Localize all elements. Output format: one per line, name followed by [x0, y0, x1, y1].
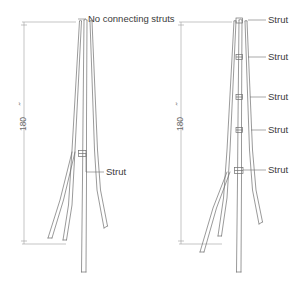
left-leg-outer-edge: [48, 152, 72, 238]
right-leg-outer-edge: [200, 172, 227, 252]
left-strut-joint: [79, 151, 87, 157]
left-figure-group: 180 ˝: [18, 13, 175, 272]
right-strut-annotation-5: Strut: [243, 164, 288, 175]
right-dimension-unit-mark: ˝: [175, 101, 185, 105]
right-dimension-label: 180: [175, 117, 185, 131]
right-pole-right-foot: [259, 222, 263, 224]
right-leg-inner-edge: [204, 172, 230, 252]
right-strut-annotation-1: Strut: [248, 14, 288, 25]
right-figure-group: 180 ˝: [175, 14, 288, 272]
right-pole-center-right-edge: [241, 20, 242, 272]
left-pole-right-foot: [104, 226, 108, 228]
left-pole-center-left-edge: [82, 20, 85, 272]
left-pole-front-right-edge: [67, 21, 82, 240]
right-strut-annotation-4: Strut: [251, 124, 288, 135]
left-strut-label: Strut: [106, 166, 126, 177]
right-pole-front-right-edge: [222, 21, 237, 236]
right-pole-right-cap: [245, 20, 247, 21]
right-strut-annotation-3: Strut: [250, 91, 288, 102]
right-strut-annotation-2: Strut: [248, 51, 288, 62]
right-strut-label-1: Strut: [268, 14, 288, 25]
left-pole-center-right-edge: [86, 20, 87, 272]
left-dimension-label: 180: [18, 117, 28, 131]
right-strut-label-2: Strut: [268, 51, 288, 62]
right-dimension-group: 180 ˝: [175, 22, 232, 244]
left-no-struts-annotation: No connecting struts: [78, 13, 175, 24]
right-strut-label-3: Strut: [268, 91, 288, 102]
left-dimension-unit-mark: ˝: [18, 101, 28, 105]
right-pole-center-cap: [239, 19, 242, 20]
left-no-struts-label: No connecting struts: [88, 13, 175, 24]
technical-drawing-canvas: 180 ˝: [0, 0, 306, 282]
right-strut-label-5: Strut: [268, 164, 288, 175]
right-strut-label-4: Strut: [268, 124, 288, 135]
right-pole-center-left-edge: [237, 20, 240, 272]
left-strut-annotation: Strut: [86, 154, 126, 178]
left-pole-front-left-edge: [63, 21, 80, 240]
right-pole-right-outer-edge: [247, 21, 263, 222]
left-leg-inner-edge: [52, 152, 75, 238]
right-mast-group: [200, 18, 263, 272]
left-mast-group: [48, 19, 108, 272]
left-pole-right-outer-edge: [92, 21, 108, 226]
left-pole-front-cap: [80, 20, 82, 21]
